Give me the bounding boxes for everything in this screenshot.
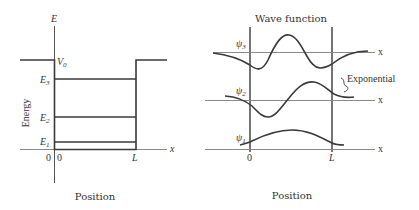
well-width-label: L [131,152,138,163]
psi1-label: ψ1 [236,132,246,145]
right-width-label: L [328,152,335,163]
psi3-label: ψ3 [236,38,246,51]
energy-side-label: Energy [20,99,31,128]
psi2-label: ψ2 [236,85,246,98]
right-caption: Position [272,190,313,201]
psi1-curve [240,130,344,145]
left-caption: Position [75,191,116,202]
wavefunction-title: Wave function [255,13,328,24]
finite-well-diagram: E V0 E3 E2 E1 Energy 0 0 L x Position Wa… [0,0,419,210]
exponential-label: Exponential [347,73,396,84]
level-label-e2: E2 [39,112,50,125]
psi2-x-label: x [378,94,383,105]
energy-axis-label: E [50,13,57,24]
origin-energy-label: 0 [46,152,51,163]
level-label-e3: E3 [39,74,50,87]
x-axis-label: x [169,143,175,154]
energy-diagram: E V0 E3 E2 E1 Energy 0 0 L x Position [20,13,175,202]
psi3-x-label: x [378,46,383,57]
origin-x-label: 0 [57,152,62,163]
potential-label: V0 [57,56,67,69]
psi2-curve [225,82,354,117]
psi1-x-label: x [378,143,383,154]
wavefunction-diagram: Wave function Exponential ψ3 ψ2 ψ1 x x x… [205,13,396,201]
level-label-e1: E1 [39,136,50,149]
right-origin-label: 0 [247,152,252,163]
